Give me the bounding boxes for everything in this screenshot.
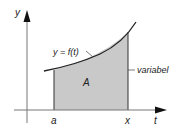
curve-label: y = f(t) bbox=[52, 47, 79, 57]
y-axis-label: y bbox=[14, 7, 21, 18]
integral-area-diagram: y t y = f(t) A variabel a x bbox=[0, 0, 181, 133]
upper-bound-label: x bbox=[124, 115, 131, 126]
curve-label-leader bbox=[86, 51, 93, 57]
y-axis-arrow-icon bbox=[24, 10, 31, 22]
lower-bound-label: a bbox=[51, 115, 57, 126]
t-axis-label: t bbox=[154, 115, 158, 126]
area-label: A bbox=[82, 77, 90, 88]
variable-label: variabel bbox=[137, 65, 170, 75]
diagram-canvas: y t y = f(t) A variabel a x bbox=[0, 0, 181, 133]
t-axis-arrow-icon bbox=[155, 107, 167, 114]
